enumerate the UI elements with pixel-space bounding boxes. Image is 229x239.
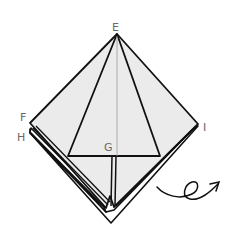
turn-over-arrow-icon <box>157 182 219 200</box>
label-g: G <box>104 141 113 154</box>
label-h: H <box>17 131 25 144</box>
label-e: E <box>112 21 119 34</box>
label-f: F <box>20 111 26 124</box>
label-i: I <box>203 121 206 134</box>
origami-diagram: E F H G I <box>0 0 229 239</box>
